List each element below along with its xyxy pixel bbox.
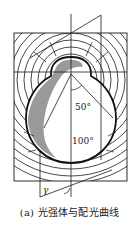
light-distribution-diagram: 50° 100° γ [0,0,139,229]
top-diagonal [30,15,101,58]
gamma-label: γ [43,185,49,195]
angle-50-label: 50° [75,102,91,112]
angle-arc-gamma [64,188,70,194]
angle-100-label: 100° [72,136,94,146]
figure-caption: (a) 光强体与配光曲线 [0,204,139,219]
